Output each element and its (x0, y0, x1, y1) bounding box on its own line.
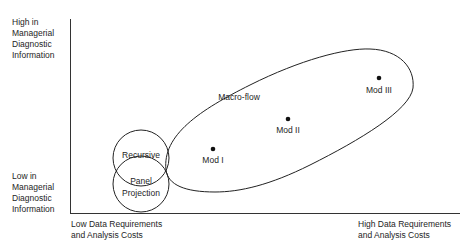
mod-ii-point (286, 117, 291, 122)
panel-label-line2: Projection (122, 188, 160, 198)
panel-label-line1: Panel (130, 176, 152, 186)
mod-i-point (211, 147, 216, 152)
mod-ii-label: Mod II (276, 125, 300, 135)
diagram-canvas: Recursive Panel Projection Macro-flow Mo… (0, 0, 473, 248)
mod-i-label: Mod I (202, 155, 223, 165)
macro-flow-label: Macro-flow (218, 92, 260, 102)
recursive-label: Recursive (122, 150, 160, 160)
mod-iii-label: Mod III (366, 85, 392, 95)
mod-iii-point (377, 76, 382, 81)
